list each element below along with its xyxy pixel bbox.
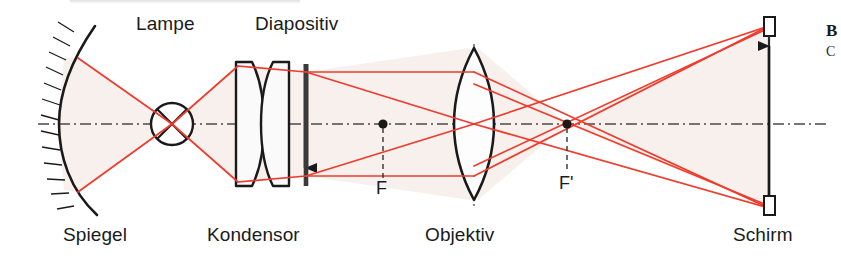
label-lampe: Lampe (136, 13, 195, 35)
caption-subtitle-text: C (826, 44, 841, 61)
caption-subtitle-clipped: C (826, 44, 841, 61)
figure-canvas: Lampe Diapositiv Spiegel Kondensor Objek… (0, 0, 841, 267)
label-diapositiv: Diapositiv (255, 13, 338, 35)
label-schirm: Schirm (733, 224, 793, 246)
label-kondensor: Kondensor (207, 224, 300, 246)
label-spiegel: Spiegel (63, 224, 127, 246)
label-focal-point-F: F (376, 178, 387, 199)
caption-title-text: B (826, 22, 841, 41)
caption-title-clipped: B (826, 22, 841, 41)
label-focal-point-F-prime: F' (559, 173, 574, 194)
label-objektiv: Objektiv (425, 224, 494, 246)
